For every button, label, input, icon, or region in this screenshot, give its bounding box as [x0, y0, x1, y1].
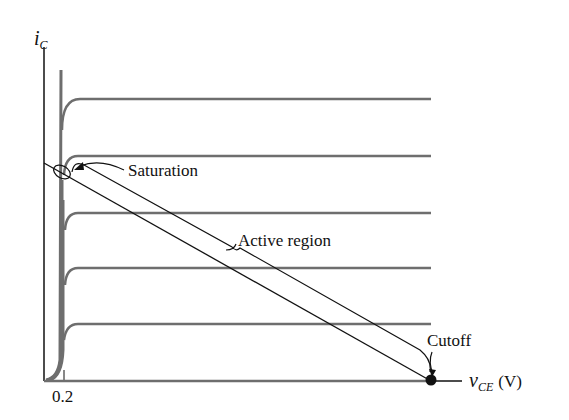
- x-axis-label: vCE (V): [469, 370, 522, 390]
- y-axis-label: iC: [34, 28, 48, 48]
- saturation-label: Saturation: [128, 162, 198, 179]
- characteristic-curves: [62, 99, 431, 340]
- load-line: [44, 163, 431, 381]
- cutoff-label: Cutoff: [427, 332, 471, 349]
- bjt-characteristics-diagram: [0, 0, 569, 420]
- cutoff-point: [426, 375, 437, 386]
- active-region-label: Active region: [238, 232, 331, 249]
- curve-2: [64, 156, 431, 175]
- curve-5: [64, 324, 431, 340]
- curve-3: [65, 213, 431, 230]
- saturation-curves: [46, 70, 63, 380]
- curve-4: [65, 268, 431, 285]
- curve-1: [62, 99, 431, 130]
- x-tick-label: 0.2: [52, 388, 73, 405]
